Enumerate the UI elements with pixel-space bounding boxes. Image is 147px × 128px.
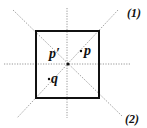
line-2-label: (2) (125, 112, 139, 126)
square-symmetry-diagram: p′ p q (1) (2) (0, 0, 147, 128)
point-p-label: p (83, 43, 91, 58)
point-q-dot (48, 78, 50, 80)
point-p-prime-dot (66, 62, 69, 65)
point-p-prime-label: p′ (48, 46, 60, 61)
line-1-label: (1) (127, 6, 141, 20)
point-p-dot (80, 50, 82, 52)
point-q-label: q (51, 71, 58, 86)
